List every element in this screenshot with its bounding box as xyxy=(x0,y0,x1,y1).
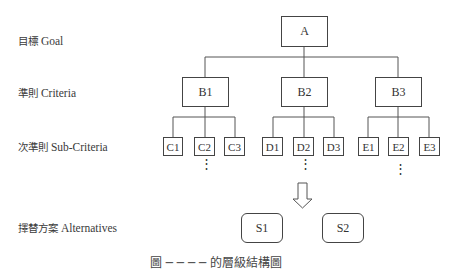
criteria-node-b1: B1 xyxy=(182,77,229,107)
node-label: B2 xyxy=(297,85,311,100)
node-label: C2 xyxy=(198,141,211,153)
ellipsis-icon: ⋮ xyxy=(200,157,213,170)
subcriteria-node-d3: D3 xyxy=(323,137,344,156)
subcriteria-node-c2: C2 xyxy=(194,137,215,156)
subcriteria-node-e1: E1 xyxy=(358,137,379,156)
figure-caption: 圖 ─ ─ ─ ─ 的層級結構圖 xyxy=(150,253,282,270)
node-label: S2 xyxy=(337,221,350,236)
subcriteria-node-e2: E2 xyxy=(388,137,409,156)
node-label: D1 xyxy=(266,141,279,153)
alternative-node-s1: S1 xyxy=(241,213,283,243)
node-label: C1 xyxy=(167,141,180,153)
subcriteria-node-d1: D1 xyxy=(262,137,283,156)
down-arrow-icon xyxy=(293,183,312,208)
node-label: D2 xyxy=(297,141,310,153)
node-label: B3 xyxy=(391,85,405,100)
node-label: E1 xyxy=(362,141,374,153)
node-label: E3 xyxy=(423,141,435,153)
node-label: E2 xyxy=(392,141,404,153)
goal-label: A xyxy=(300,24,309,39)
ellipsis-icon: ⋮ xyxy=(394,162,407,175)
criteria-node-b3: B3 xyxy=(375,77,422,107)
criteria-node-b2: B2 xyxy=(281,77,328,107)
subcriteria-node-c3: C3 xyxy=(224,137,245,156)
subcriteria-node-c1: C1 xyxy=(163,137,183,156)
subcriteria-node-d2: D2 xyxy=(293,137,314,156)
goal-node: A xyxy=(281,16,328,47)
subcriteria-node-e3: E3 xyxy=(419,137,440,156)
ellipsis-icon: ⋮ xyxy=(299,157,312,170)
alternative-node-s2: S2 xyxy=(322,213,364,243)
node-label: C3 xyxy=(228,141,241,153)
node-label: D3 xyxy=(327,141,340,153)
node-label: B1 xyxy=(198,85,212,100)
node-label: S1 xyxy=(256,221,269,236)
